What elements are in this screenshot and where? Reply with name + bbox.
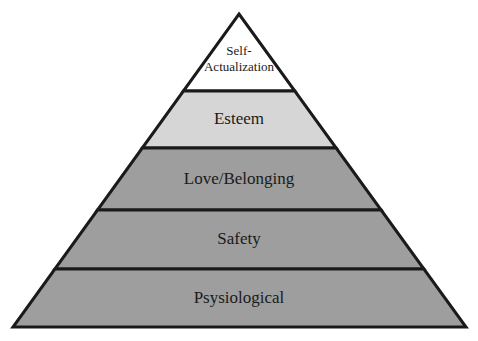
pyramid-label-safety: Safety xyxy=(217,229,261,248)
pyramid-diagram: Self-ActualizationEsteemLove/BelongingSa… xyxy=(0,0,478,341)
pyramid-svg: Self-ActualizationEsteemLove/BelongingSa… xyxy=(0,0,478,341)
pyramid-label-love-belonging: Love/Belonging xyxy=(184,169,295,188)
pyramid-label-psysiological: Psysiological xyxy=(194,288,285,307)
pyramid-label-esteem: Esteem xyxy=(214,109,264,128)
